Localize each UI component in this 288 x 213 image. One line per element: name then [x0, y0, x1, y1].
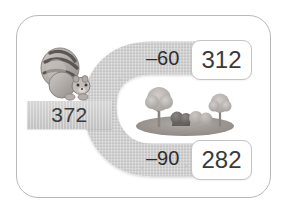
bottom-answer-box[interactable]: 282: [191, 140, 252, 180]
start-value: 372: [27, 101, 112, 129]
top-answer-box[interactable]: 312: [191, 40, 252, 80]
bottom-operation-label: –90: [146, 147, 179, 170]
start-road-bar: 372: [27, 101, 112, 129]
squirrel-icon: [36, 46, 98, 104]
scenery-illustration: [132, 82, 238, 138]
top-operation-label: –60: [146, 47, 179, 70]
worksheet-scene: 372: [0, 0, 288, 213]
